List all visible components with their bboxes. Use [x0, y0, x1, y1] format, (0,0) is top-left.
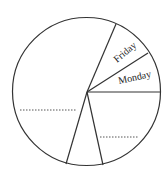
pie-chart: Friday Monday — [0, 0, 168, 182]
